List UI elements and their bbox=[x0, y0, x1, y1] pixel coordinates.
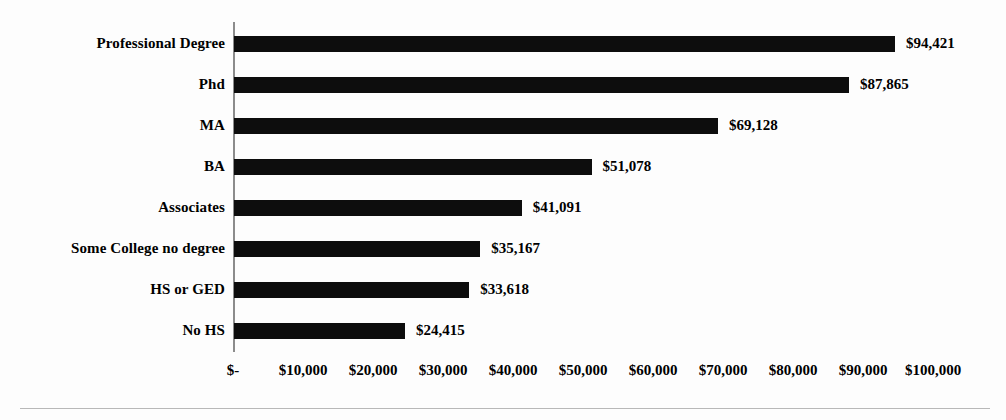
category-label: Some College no degree bbox=[0, 228, 225, 269]
bar-container: $69,128 bbox=[234, 105, 778, 146]
bar-row: MA$69,128 bbox=[0, 105, 1006, 146]
category-label: Phd bbox=[0, 64, 225, 105]
bar-container: $51,078 bbox=[234, 146, 651, 187]
x-axis-tick-label: $60,000 bbox=[629, 362, 678, 379]
x-axis-tick-label: $90,000 bbox=[839, 362, 888, 379]
x-axis-tick-label: $30,000 bbox=[419, 362, 468, 379]
bar bbox=[234, 36, 895, 52]
bar-container: $33,618 bbox=[234, 269, 529, 310]
bar-row: Associates$41,091 bbox=[0, 187, 1006, 228]
x-axis-tick-label: $10,000 bbox=[279, 362, 328, 379]
category-label: Associates bbox=[0, 187, 225, 228]
bar bbox=[234, 200, 522, 216]
bar-row: HS or GED$33,618 bbox=[0, 269, 1006, 310]
bar bbox=[234, 118, 718, 134]
bar-row: No HS$24,415 bbox=[0, 310, 1006, 351]
bar-chart: Professional Degree$94,421Phd$87,865MA$6… bbox=[0, 0, 1006, 420]
bar-container: $35,167 bbox=[234, 228, 540, 269]
bar-value-label: $69,128 bbox=[729, 117, 778, 134]
x-axis: $-$10,000$20,000$30,000$40,000$50,000$60… bbox=[0, 362, 1006, 390]
bar-row: Phd$87,865 bbox=[0, 64, 1006, 105]
bar bbox=[234, 159, 592, 175]
x-axis-tick-label: $20,000 bbox=[349, 362, 398, 379]
bar bbox=[234, 282, 469, 298]
x-axis-tick-label: $- bbox=[227, 362, 240, 379]
bar bbox=[234, 77, 849, 93]
bar-value-label: $35,167 bbox=[491, 240, 540, 257]
bar-row: BA$51,078 bbox=[0, 146, 1006, 187]
category-label: BA bbox=[0, 146, 225, 187]
bar-row: Some College no degree$35,167 bbox=[0, 228, 1006, 269]
bar-container: $87,865 bbox=[234, 64, 909, 105]
bar-value-label: $41,091 bbox=[533, 199, 582, 216]
bottom-divider bbox=[20, 408, 990, 409]
bar-row: Professional Degree$94,421 bbox=[0, 23, 1006, 64]
category-label: HS or GED bbox=[0, 269, 225, 310]
bar-value-label: $94,421 bbox=[906, 35, 955, 52]
plot-area: Professional Degree$94,421Phd$87,865MA$6… bbox=[0, 0, 1006, 420]
category-label: Professional Degree bbox=[0, 23, 225, 64]
bar bbox=[234, 241, 480, 257]
x-axis-tick-label: $70,000 bbox=[699, 362, 748, 379]
bar-container: $24,415 bbox=[234, 310, 465, 351]
x-axis-tick-label: $100,000 bbox=[905, 362, 961, 379]
bar-container: $94,421 bbox=[234, 23, 955, 64]
x-axis-tick-label: $80,000 bbox=[769, 362, 818, 379]
bar-value-label: $87,865 bbox=[860, 76, 909, 93]
x-axis-tick-label: $50,000 bbox=[559, 362, 608, 379]
category-label: MA bbox=[0, 105, 225, 146]
x-axis-tick-label: $40,000 bbox=[489, 362, 538, 379]
bar-container: $41,091 bbox=[234, 187, 581, 228]
category-label: No HS bbox=[0, 310, 225, 351]
bar-value-label: $51,078 bbox=[603, 158, 652, 175]
bar-value-label: $24,415 bbox=[416, 322, 465, 339]
bar bbox=[234, 323, 405, 339]
bar-value-label: $33,618 bbox=[480, 281, 529, 298]
